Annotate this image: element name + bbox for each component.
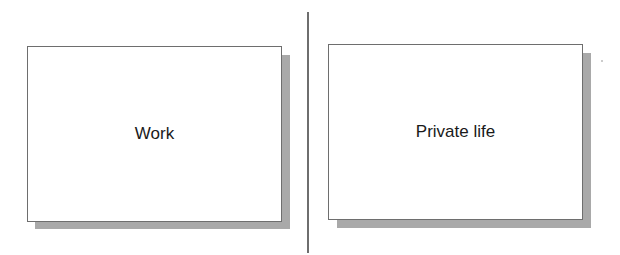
private-life-label: Private life [416, 122, 495, 142]
stray-dot [601, 60, 603, 62]
work-label: Work [135, 124, 174, 144]
private-life-box: Private life [328, 44, 583, 220]
work-box: Work [27, 46, 282, 222]
vertical-divider [307, 12, 309, 253]
